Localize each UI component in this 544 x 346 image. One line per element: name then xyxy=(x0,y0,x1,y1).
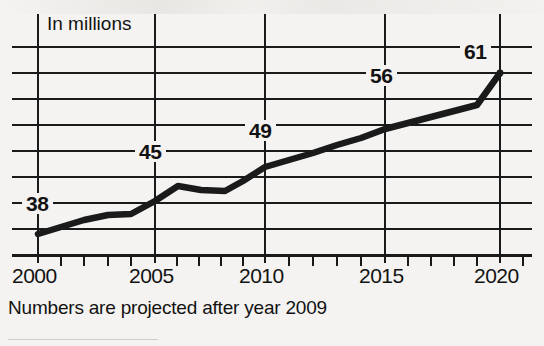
x-tick-label-2000: 2000 xyxy=(12,264,57,288)
x-tick-label-2005: 2005 xyxy=(129,264,174,288)
x-tick-label-2015: 2015 xyxy=(359,264,404,288)
data-label-2015: 56 xyxy=(366,65,397,86)
x-tick-label-2020: 2020 xyxy=(474,264,519,288)
data-series-line xyxy=(38,73,500,234)
unit-note-label: In millions xyxy=(42,14,137,33)
data-label-2020: 61 xyxy=(460,41,491,62)
chart-footnote: Numbers are projected after year 2009 xyxy=(8,297,327,319)
scan-artifact-bottom-rule xyxy=(8,339,158,340)
data-label-2000: 38 xyxy=(22,193,53,214)
endpoint-marker-2020 xyxy=(497,70,504,77)
x-tick-label-2010: 2010 xyxy=(239,264,284,288)
data-label-2010: 49 xyxy=(245,120,276,141)
data-label-2005: 45 xyxy=(135,141,166,162)
